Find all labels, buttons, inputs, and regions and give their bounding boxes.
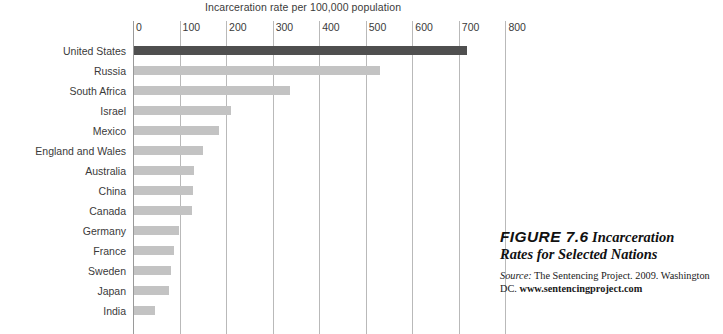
bar-row: South Africa (0, 82, 500, 102)
bar (134, 66, 380, 75)
bar-row: Russia (0, 62, 500, 82)
bar (134, 106, 231, 115)
bar (134, 46, 467, 55)
bar (134, 186, 193, 195)
bar (134, 266, 171, 275)
bar-row: Mexico (0, 122, 500, 142)
bar-row: Germany (0, 222, 500, 242)
category-label: Japan (0, 285, 126, 297)
category-label: Russia (0, 65, 126, 77)
bar (134, 306, 155, 315)
category-label: Sweden (0, 265, 126, 277)
bar (134, 206, 192, 215)
category-label: India (0, 305, 126, 317)
category-label: Mexico (0, 125, 126, 137)
bar-row: England and Wales (0, 142, 500, 162)
caption-figure-number: FIGURE 7.6 (500, 228, 588, 245)
bar-row: India (0, 302, 500, 322)
bar (134, 126, 219, 135)
category-label: Canada (0, 205, 126, 217)
bar (134, 286, 169, 295)
category-label: Israel (0, 105, 126, 117)
caption-title: FIGURE 7.6 Incarceration Rates for Selec… (500, 228, 710, 263)
bar (134, 246, 174, 255)
bar (134, 166, 194, 175)
category-label: South Africa (0, 85, 126, 97)
bar-row: Israel (0, 102, 500, 122)
figure-caption: FIGURE 7.6 Incarceration Rates for Selec… (500, 228, 710, 295)
bar-row: France (0, 242, 500, 262)
caption-source: Source: The Sentencing Project. 2009. Wa… (500, 270, 710, 295)
bar (134, 86, 290, 95)
bar-chart: Incarceration rate per 100,000 populatio… (0, 0, 500, 334)
figure-page: Incarceration rate per 100,000 populatio… (0, 0, 723, 334)
bar-row: Sweden (0, 262, 500, 282)
category-label: France (0, 245, 126, 257)
category-label: United States (0, 45, 126, 57)
bar-row: Canada (0, 202, 500, 222)
bar (134, 226, 179, 235)
bar-rows: United StatesRussiaSouth AfricaIsraelMex… (0, 0, 500, 334)
x-tick-label-800: 800 (505, 21, 526, 33)
category-label: England and Wales (0, 145, 126, 157)
bar-row: United States (0, 42, 500, 62)
category-label: Australia (0, 165, 126, 177)
bar (134, 146, 203, 155)
bar-row: China (0, 182, 500, 202)
caption-source-label: Source: (500, 270, 532, 281)
caption-source-url: www.sentencingproject.com (519, 283, 642, 294)
category-label: China (0, 185, 126, 197)
bar-row: Japan (0, 282, 500, 302)
category-label: Germany (0, 225, 126, 237)
bar-row: Australia (0, 162, 500, 182)
